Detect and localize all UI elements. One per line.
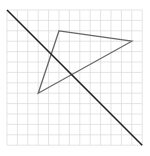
reflection-diagram <box>0 0 150 156</box>
line-of-reflection <box>7 10 142 145</box>
